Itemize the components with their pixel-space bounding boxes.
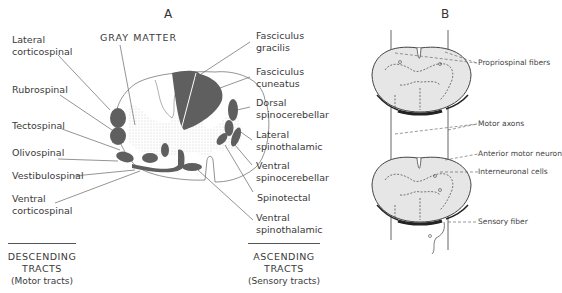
label-vestibulospinal: Vestibulospinal (12, 170, 84, 182)
label-ventral-spinocerebellar: Ventral spinocerebellar (256, 160, 329, 184)
label-line: cuneatus (256, 78, 304, 90)
label-line: spinothalamic (256, 224, 323, 236)
panel-a-title: A (164, 7, 172, 21)
footer-line: ASCENDING (246, 251, 322, 263)
label-line: Ventral (256, 212, 323, 224)
footer-subtitle: (Motor tracts) (4, 275, 80, 287)
ascending-footer: ASCENDING TRACTS (Sensory tracts) (246, 251, 322, 287)
label-line: Ventral (12, 193, 72, 205)
label-propriospinal-fibers: Propriospinal fibers (478, 58, 550, 67)
label-line: Fasciculus (256, 30, 304, 42)
footer-line: TRACTS (246, 263, 322, 275)
label-line: corticospinal (12, 46, 72, 58)
label-line: corticospinal (12, 205, 72, 217)
label-ventral-spinothalamic: Ventral spinothalamic (256, 212, 323, 236)
label-fasciculus-gracilis: Fasciculus gracilis (256, 30, 304, 54)
label-line: spinothalamic (256, 141, 323, 153)
label-anterior-motor-neuron: Anterior motor neuron (478, 149, 562, 158)
label-lateral-spinothalamic: Lateral spinothalamic (256, 129, 323, 153)
label-line: Lateral (256, 129, 323, 141)
label-motor-axons: Motor axons (478, 119, 524, 128)
label-lateral-corticospinal: Lateral corticospinal (12, 34, 72, 58)
label-spinotectal: Spinotectal (257, 192, 311, 204)
label-line: spinocerebellar (256, 172, 329, 184)
spinal-cord-section-a (110, 71, 269, 182)
label-sensory-fiber: Sensory fiber (478, 217, 528, 226)
label-line: gracilis (256, 42, 304, 54)
footer-line: TRACTS (4, 263, 80, 275)
panel-b-title: B (441, 7, 449, 21)
label-tectospinal: Tectospinal (12, 120, 65, 132)
label-line: Ventral (256, 160, 329, 172)
label-olivospinal: Olivospinal (12, 147, 64, 159)
label-line: Lateral (12, 34, 72, 46)
label-interneuronal-cells: Interneuronal cells (478, 167, 548, 176)
gray-matter-label: GRAY MATTER (100, 32, 177, 43)
label-line: spinocerebellar (256, 109, 329, 121)
label-rubrospinal: Rubrospinal (12, 84, 68, 96)
label-line: Dorsal (256, 97, 329, 109)
ascending-divider (248, 243, 320, 244)
descending-footer: DESCENDING TRACTS (Motor tracts) (4, 251, 80, 287)
label-fasciculus-cuneatus: Fasciculus cuneatus (256, 66, 304, 90)
spinal-cord-section-b (372, 30, 471, 254)
label-line: Fasciculus (256, 66, 304, 78)
footer-line: DESCENDING (4, 251, 80, 263)
descending-divider (8, 243, 76, 244)
label-dorsal-spinocerebellar: Dorsal spinocerebellar (256, 97, 329, 121)
footer-subtitle: (Sensory tracts) (246, 275, 322, 287)
label-ventral-corticospinal: Ventral corticospinal (12, 193, 72, 217)
